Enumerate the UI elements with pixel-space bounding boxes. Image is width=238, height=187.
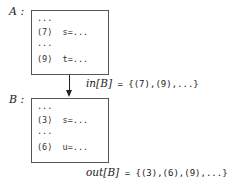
out-set-label: out[B] = {(3),(6),(9),...} (86, 166, 228, 178)
block-a-line: ... (37, 38, 52, 48)
block-b-line: (3) s=... (37, 115, 88, 125)
edge-line (69, 75, 70, 91)
block-b-line: ... (37, 126, 52, 136)
out-set-value: = {(3),(6),(9),...} (119, 168, 227, 178)
arrow-down-icon (66, 90, 72, 97)
block-b-line: (6) u=... (37, 142, 88, 152)
block-a-line: (9) t=... (37, 54, 88, 64)
in-set-value: = {(7),(9),...} (112, 79, 199, 89)
block-a-line: ... (37, 13, 52, 23)
block-b: ... (3) s=... ... (6) u=... (31, 98, 109, 163)
in-set-label: in[B] = {(7),(9),...} (86, 77, 199, 89)
block-a: ... (7) s=... ... (9) t=... (31, 10, 109, 75)
block-b-line: ... (37, 101, 52, 111)
in-set-name: in[B] (86, 77, 112, 89)
block-b-label: B : (9, 93, 24, 106)
block-a-line: (7) s=... (37, 27, 88, 37)
block-a-label: A : (9, 5, 24, 18)
out-set-name: out[B] (86, 166, 119, 178)
